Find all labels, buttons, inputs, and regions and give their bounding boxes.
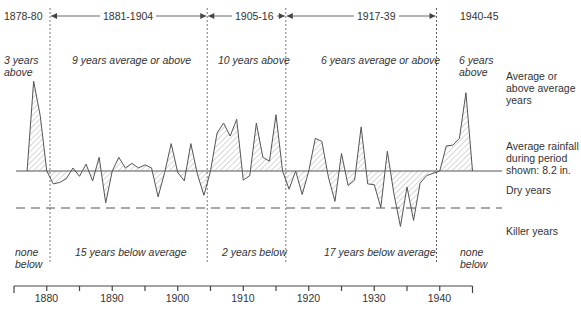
legend-above-average: Average or above average years <box>506 70 581 106</box>
below-note-1905-16: 2 years below <box>222 246 287 258</box>
x-tick-label: 1930 <box>362 292 385 304</box>
legend-dry-years: Dry years <box>506 184 551 196</box>
below-note-1881-1904: 15 years below average <box>75 246 187 258</box>
hatched-deviation-area <box>27 81 472 226</box>
above-note-1917-39: 6 years average or above <box>321 54 440 66</box>
above-note-1940-45: 6 yearsabove <box>459 54 499 78</box>
period-label-1917-39: 1917-39 <box>354 10 399 22</box>
x-tick-label: 1890 <box>100 292 123 304</box>
below-note-1917-39: 17 years below average <box>324 246 436 258</box>
x-tick-label: 1940 <box>428 292 451 304</box>
rainfall-line <box>27 81 472 226</box>
period-label-1878-80: 1878-80 <box>4 10 43 22</box>
legend-average-rainfall: Average rainfall during period shown: 8.… <box>506 140 581 176</box>
x-tick-label: 1900 <box>166 292 189 304</box>
above-note-1878-80: 3 yearsabove <box>4 54 44 78</box>
period-label-1940-45: 1940-45 <box>460 10 499 22</box>
arrow-right-icon <box>279 13 285 19</box>
above-note-1905-16: 10 years above <box>218 54 290 66</box>
rainfall-area <box>27 81 472 226</box>
below-note-1940-45: nonebelow <box>460 246 500 270</box>
period-label-1905-16: 1905-16 <box>232 10 277 22</box>
below-note-1878-80: nonebelow <box>15 246 55 270</box>
x-tick-label: 1910 <box>231 292 254 304</box>
arrow-left-icon <box>51 13 57 19</box>
x-tick-label: 1920 <box>297 292 320 304</box>
x-tick-label: 1880 <box>35 292 58 304</box>
period-label-1881-1904: 1881-1904 <box>100 10 156 22</box>
arrow-left-icon <box>208 13 214 19</box>
arrow-right-icon <box>429 13 435 19</box>
above-note-1881-1904: 9 years average or above <box>72 54 191 66</box>
arrow-left-icon <box>287 13 293 19</box>
arrow-right-icon <box>200 13 206 19</box>
legend-killer-years: Killer years <box>506 225 558 237</box>
